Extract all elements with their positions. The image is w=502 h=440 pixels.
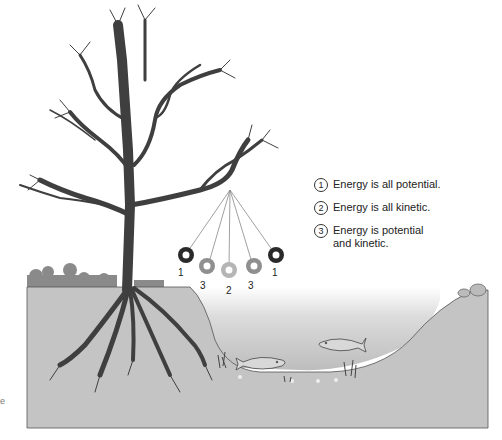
- cropped-text-fragment: e: [0, 396, 5, 406]
- pendulum-label: 3: [200, 280, 206, 291]
- legend-text: Energy is all potential.: [333, 178, 441, 191]
- energy-legend: 1 Energy is all potential. 2 Energy is a…: [314, 178, 441, 259]
- pendulum-label: 1: [272, 267, 278, 278]
- legend-number: 1: [314, 178, 328, 192]
- pendulum-bob-2: [221, 262, 237, 278]
- legend-item-kinetic: 2 Energy is all kinetic.: [314, 201, 441, 215]
- legend-item-both: 3 Energy is potential and kinetic.: [314, 224, 441, 250]
- legend-number: 2: [314, 201, 328, 215]
- legend-text: Energy is potential and kinetic.: [333, 224, 424, 250]
- pendulum-label: 2: [226, 285, 232, 296]
- legend-number: 3: [314, 224, 328, 238]
- pendulum-strings: [186, 190, 275, 268]
- legend-text: Energy is all kinetic.: [333, 201, 430, 214]
- pendulum-bob-1-right: [268, 247, 284, 263]
- pendulum-label: 3: [248, 280, 254, 291]
- pendulum-bob-3-left: [199, 258, 215, 274]
- legend-item-potential: 1 Energy is all potential.: [314, 178, 441, 192]
- pendulum-label: 1: [178, 267, 184, 278]
- bushes: [27, 263, 164, 288]
- pendulum-bob-3-right: [246, 258, 262, 274]
- pendulum-bob-1-left: [178, 247, 194, 263]
